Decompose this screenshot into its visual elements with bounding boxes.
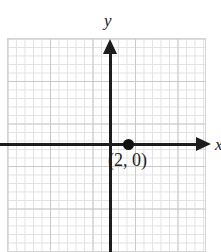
x-axis-line <box>0 143 200 146</box>
y-axis-arrowhead-icon <box>103 39 117 54</box>
y-axis-label: y <box>104 12 112 29</box>
y-axis-line <box>109 45 112 252</box>
x-axis-label: x <box>215 136 221 153</box>
coordinate-plane-figure: y x (2, 0) <box>0 0 221 252</box>
x-axis-arrowhead-icon <box>196 137 211 151</box>
point-coordinate-label: (2, 0) <box>108 151 147 169</box>
plotted-point-marker <box>123 139 134 150</box>
